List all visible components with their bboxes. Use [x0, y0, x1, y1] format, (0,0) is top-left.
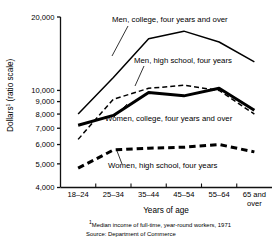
x-tick-label: 35–44	[138, 190, 159, 199]
y-tick-label: 7,000	[35, 124, 54, 133]
y-axis-title: Dollars1 (ratio scale)	[5, 58, 15, 132]
y-tick-label: 4,000	[35, 183, 54, 192]
series-label: Men, college, four years and over	[112, 15, 228, 24]
y-axis-title-tail: (ratio scale)	[6, 58, 15, 103]
y-tick-label: 8,000	[35, 110, 54, 119]
x-tick-label: 45–54	[173, 190, 194, 199]
x-tick-label: 18–24	[68, 190, 89, 199]
series-label: Women, college, four years and over	[105, 114, 233, 123]
income-by-age-chart: 20,00010,0009,0008,0007,0006,0005,0004,0…	[0, 0, 280, 244]
y-tick-label: 10,000	[31, 86, 54, 95]
footnote-text-1: Median income of full-time, year-round w…	[92, 222, 231, 228]
x-tick-label: 25–34	[103, 190, 124, 199]
y-tick-label: 5,000	[35, 160, 54, 169]
chart-canvas: 20,00010,0009,0008,0007,0006,0005,0004,0…	[0, 0, 280, 244]
x-tick-label: 55–64	[209, 190, 230, 199]
y-axis-title-text: Dollars1 (ratio scale)	[5, 58, 15, 132]
series-label: Men, high school, four years	[134, 56, 232, 65]
x-axis-title: Years of age	[143, 206, 189, 215]
footnote-line-2: Source: Department of Commerce	[86, 231, 176, 237]
y-axis-title-main: Dollars	[6, 107, 15, 132]
y-tick-label: 20,000	[31, 13, 54, 22]
y-tick-label: 6,000	[35, 140, 54, 149]
series-label: Women, high school, four years	[108, 161, 218, 170]
y-tick-label: 9,000	[35, 97, 54, 106]
